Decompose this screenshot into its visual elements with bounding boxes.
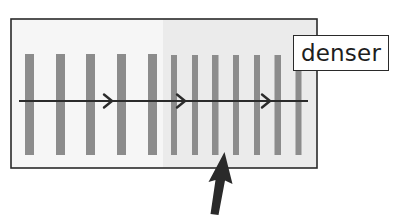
bar xyxy=(171,55,177,155)
bar xyxy=(86,54,95,155)
bar xyxy=(148,54,157,155)
bar xyxy=(275,55,282,155)
bar xyxy=(212,55,219,155)
bar xyxy=(254,55,260,155)
denser-label: denser xyxy=(293,35,389,71)
bar xyxy=(56,54,65,155)
bar xyxy=(117,54,126,155)
bar xyxy=(25,54,34,155)
bar xyxy=(192,55,198,155)
bar xyxy=(233,55,239,155)
wave-density-diagram xyxy=(0,0,407,218)
